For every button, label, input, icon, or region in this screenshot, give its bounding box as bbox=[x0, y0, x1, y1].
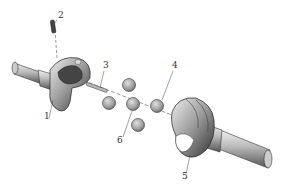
balls-group bbox=[103, 79, 164, 132]
part-label-1: 1 bbox=[44, 112, 50, 121]
left-yoke-part-1 bbox=[12, 58, 90, 112]
part-label-4: 4 bbox=[172, 61, 178, 70]
part-label-2: 2 bbox=[58, 11, 64, 20]
part-label-5: 5 bbox=[182, 172, 188, 181]
diagram-canvas: 1 2 3 4 5 6 bbox=[0, 0, 286, 189]
right-yoke-part-5 bbox=[172, 98, 273, 168]
part-label-3: 3 bbox=[103, 61, 109, 70]
locking-pin-part-2 bbox=[50, 20, 56, 33]
center-pin-part-3 bbox=[86, 82, 108, 92]
part-label-6: 6 bbox=[117, 136, 123, 145]
